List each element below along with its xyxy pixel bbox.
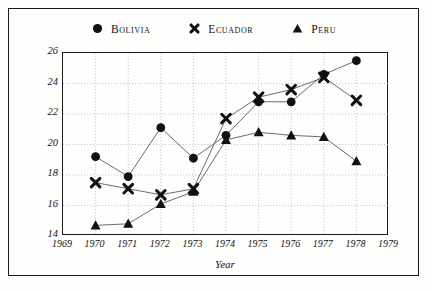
data-point-ecuador-1976: [287, 85, 296, 94]
y-tick-18: 18: [48, 167, 59, 178]
y-tick-16: 16: [48, 198, 59, 209]
x-axis-title: Year: [62, 258, 388, 270]
data-series-layer: [63, 53, 389, 236]
x-axis-tick-labels: 1969197019711972197319741975197619771978…: [62, 238, 388, 254]
data-point-ecuador-1978: [352, 96, 361, 105]
data-point-ecuador-1974: [222, 114, 231, 123]
data-point-peru-1971: [123, 219, 133, 228]
y-axis-tick-labels: 14161820222426: [28, 52, 58, 235]
data-point-bolivia-1976: [287, 97, 296, 106]
y-tick-20: 20: [48, 137, 59, 148]
data-point-peru-1978: [351, 156, 361, 165]
data-point-bolivia-1978: [352, 56, 361, 65]
y-tick-22: 22: [48, 106, 59, 117]
y-tick-24: 24: [48, 76, 59, 87]
data-point-peru-1975: [254, 127, 264, 136]
data-point-bolivia-1970: [91, 152, 100, 161]
data-point-ecuador-1971: [124, 184, 133, 193]
plot-area: [62, 52, 388, 235]
data-point-ecuador-1972: [157, 191, 166, 200]
data-point-bolivia-1972: [156, 123, 165, 132]
x-tick-1979: 1979: [368, 238, 408, 249]
chart-figure: Bolivia Ecuador Peru 14161820222426 1969…: [0, 0, 432, 291]
data-point-ecuador-1970: [91, 178, 100, 187]
y-tick-26: 26: [48, 45, 59, 56]
data-point-bolivia-1973: [189, 154, 198, 163]
series-line-peru: [96, 132, 357, 225]
data-point-bolivia-1971: [124, 172, 133, 181]
